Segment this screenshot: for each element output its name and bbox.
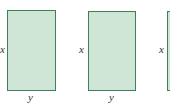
rectangle-1 [7,10,56,91]
rectangle-3-side-label: x [159,44,164,55]
rectangle-2-side-label: x [79,44,84,55]
rectangle-2 [88,11,136,91]
rectangle-1-bottom-label: y [28,92,33,103]
rectangle-2-bottom-label: y [109,92,114,103]
rectangle-3 [167,11,170,91]
rectangle-1-side-label: x [0,44,5,55]
